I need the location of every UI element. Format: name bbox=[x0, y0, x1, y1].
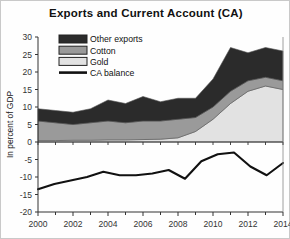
y-tick-label: -15 bbox=[20, 190, 33, 200]
legend-group: Other exportsCottonGoldCA balance bbox=[59, 34, 143, 78]
y-axis-ticks-group: 302520151050-5-10-15-20 bbox=[20, 32, 38, 217]
y-axis-title: In percent of GDP bbox=[5, 91, 15, 158]
y-tick-label: -5 bbox=[24, 155, 32, 165]
legend-swatch-gold bbox=[59, 57, 87, 65]
y-tick-label: 30 bbox=[23, 32, 33, 42]
x-axis-ticks-group: 20002002200420062008201020122014 bbox=[29, 142, 290, 229]
x-tick-label: 2000 bbox=[29, 219, 48, 229]
y-tick-label: 15 bbox=[23, 85, 33, 95]
legend-label: Cotton bbox=[90, 46, 116, 56]
x-tick-label: 2006 bbox=[134, 219, 153, 229]
chart-frame: Exports and Current Account (CA) 3025201… bbox=[0, 0, 290, 239]
x-tick-label: 2004 bbox=[99, 219, 118, 229]
ca-balance-line bbox=[38, 153, 283, 190]
y-tick-label: 25 bbox=[23, 50, 33, 60]
y-tick-label: 0 bbox=[27, 137, 32, 147]
legend-label: Gold bbox=[90, 57, 109, 67]
chart-svg: 302520151050-5-10-15-20 2000200220042006… bbox=[1, 1, 290, 239]
y-tick-label: -20 bbox=[20, 207, 33, 217]
x-tick-label: 2014 bbox=[274, 219, 290, 229]
legend-label: CA balance bbox=[90, 68, 135, 78]
y-tick-label: -10 bbox=[20, 172, 33, 182]
ca-balance-line-group bbox=[38, 153, 283, 190]
chart-plot-area: 302520151050-5-10-15-20 2000200220042006… bbox=[1, 1, 290, 239]
y-tick-label: 10 bbox=[23, 102, 33, 112]
x-tick-label: 2012 bbox=[239, 219, 258, 229]
legend-swatch-cotton bbox=[59, 46, 87, 54]
y-tick-label: 5 bbox=[27, 120, 32, 130]
x-tick-label: 2002 bbox=[64, 219, 83, 229]
x-tick-label: 2010 bbox=[204, 219, 223, 229]
x-tick-label: 2008 bbox=[169, 219, 188, 229]
legend-label: Other exports bbox=[90, 34, 143, 44]
legend-swatch-other-exports bbox=[59, 35, 87, 43]
y-axis-label-group: In percent of GDP bbox=[5, 91, 15, 158]
y-tick-label: 20 bbox=[23, 67, 33, 77]
